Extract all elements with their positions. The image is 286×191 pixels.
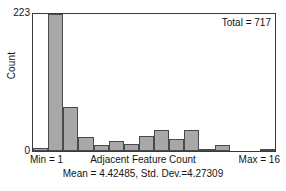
histogram-bars xyxy=(33,14,275,151)
total-annotation: Total = 717 xyxy=(222,17,271,28)
stats-annotation: Mean = 4.42485, Std. Dev.=4.27309 xyxy=(0,168,286,179)
histogram-bar xyxy=(48,14,63,151)
x-axis-max-label: Max = 16 xyxy=(239,154,280,165)
y-axis-tick-top: 223 xyxy=(4,7,30,18)
histogram-bar xyxy=(139,136,154,151)
y-axis-label: Count xyxy=(6,36,17,96)
histogram-bar xyxy=(124,144,139,151)
histogram-bar xyxy=(184,130,199,152)
histogram-bar xyxy=(94,145,109,151)
histogram-figure: 223 0 Count Total = 717 Min = 1 Adjacent… xyxy=(0,0,286,191)
histogram-bar xyxy=(215,145,230,151)
histogram-bar xyxy=(33,148,48,151)
histogram-bar xyxy=(63,107,78,151)
histogram-bar xyxy=(154,130,169,152)
histogram-bar xyxy=(260,149,275,151)
histogram-bar xyxy=(109,141,124,151)
plot-area: Total = 717 xyxy=(32,13,276,152)
histogram-bar xyxy=(199,149,214,151)
histogram-bar xyxy=(169,139,184,151)
histogram-bar xyxy=(78,137,93,151)
